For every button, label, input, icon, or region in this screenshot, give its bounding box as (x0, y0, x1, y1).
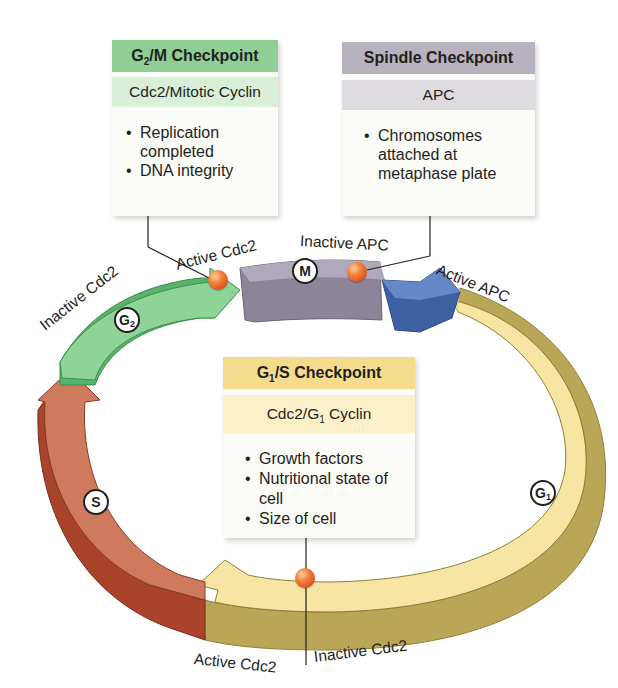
g2m-checkpoint-box: G2/M Checkpoint Cdc2/Mitotic Cyclin Repl… (112, 40, 278, 216)
condition-item: Replication completed (126, 123, 260, 161)
g2m-checkpoint-title: G2/M Checkpoint (112, 40, 278, 72)
g1s-checkpoint-title: G1/S Checkpoint (223, 357, 415, 389)
s-arrow (38, 370, 205, 640)
spindle-conditions: Chromosomes attached at metaphase plate (364, 126, 514, 183)
g1s-conditions: Growth factors Nutritional state of cell… (245, 449, 405, 529)
condition-item: Nutritional state of cell (245, 469, 404, 509)
condition-item: DNA integrity (126, 161, 278, 180)
g2m-regulator: Cdc2/Mitotic Cyclin (112, 77, 278, 107)
condition-item: Size of cell (245, 509, 405, 529)
spindle-checkpoint-title: Spindle Checkpoint (342, 42, 535, 74)
phase-s-marker: S (83, 489, 109, 515)
g1s-checkpoint-box: G1/S Checkpoint Cdc2/G1 Cyclin Growth fa… (223, 357, 415, 538)
condition-item: Growth factors (245, 449, 405, 469)
condition-item: Chromosomes attached at metaphase plate (364, 126, 514, 183)
g1s-checkpoint-ball (295, 568, 315, 588)
phase-g1-marker: G1 (530, 480, 556, 506)
g2m-checkpoint-ball (208, 270, 228, 290)
spindle-checkpoint-box: Spindle Checkpoint APC Chromosomes attac… (342, 42, 535, 216)
spindle-checkpoint-ball (347, 262, 367, 282)
phase-m-marker: M (292, 258, 318, 284)
g2m-conditions: Replication completed DNA integrity (126, 123, 278, 180)
spindle-regulator: APC (342, 80, 535, 110)
phase-g2-marker: G2 (114, 307, 140, 333)
g1s-regulator: Cdc2/G1 Cyclin (223, 395, 415, 433)
